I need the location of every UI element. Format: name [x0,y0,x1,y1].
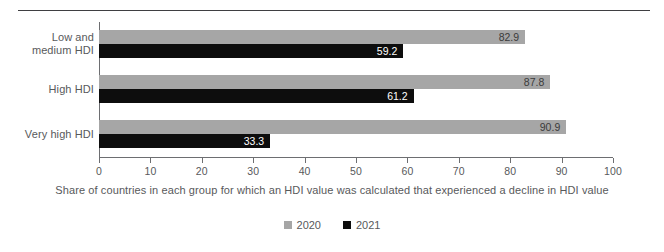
x-tick-mark [459,158,460,163]
bar-value-label: 90.9 [99,120,566,134]
x-tick-label: 100 [593,165,633,177]
x-tick-label: 60 [387,165,427,177]
category-label-very-high-hdi: Very high HDI [0,128,94,141]
x-tick-label: 80 [490,165,530,177]
bar-value-label: 87.8 [99,75,550,89]
category-label-line: medium HDI [0,44,94,57]
category-label-line: Low and [0,31,94,44]
x-tick-label: 70 [439,165,479,177]
category-label-high-hdi: High HDI [0,83,94,96]
x-tick-mark [407,158,408,163]
x-tick-label: 40 [285,165,325,177]
x-tick-mark [510,158,511,163]
bar-row: 33.3 [99,134,613,148]
category-label-low-and-medium-hdi: Low andmedium HDI [0,31,94,57]
legend-item-2021[interactable]: 2021 [343,219,380,231]
x-tick-mark [253,158,254,163]
x-tick-label: 30 [233,165,273,177]
bar-row: 61.2 [99,89,613,103]
x-tick-mark [356,158,357,163]
legend-label-2020: 2020 [297,219,321,231]
x-tick-mark [202,158,203,163]
x-tick-mark [150,158,151,163]
x-tick-mark [99,158,100,163]
chart-caption: Share of countries in each group for whi… [0,184,664,196]
bar-value-label: 59.2 [99,44,403,58]
top-divider-rule [18,10,650,11]
bar-row: 82.9 [99,30,613,44]
x-tick-label: 10 [130,165,170,177]
category-label-line: High HDI [0,83,94,96]
category-label-line: Very high HDI [0,128,94,141]
chart-figure: 0102030405060708090100 82.959.287.861.29… [0,0,664,252]
x-tick-label: 50 [336,165,376,177]
bar-value-label: 33.3 [99,134,270,148]
bar-value-label: 61.2 [99,89,414,103]
legend-item-2020[interactable]: 2020 [284,219,321,231]
x-tick-mark [562,158,563,163]
bar-row: 59.2 [99,44,613,58]
legend-swatch-2020 [284,221,292,229]
chart-legend: 2020 2021 [0,219,664,231]
bar-row: 90.9 [99,120,613,134]
x-tick-mark [613,158,614,163]
legend-label-2021: 2021 [356,219,380,231]
legend-swatch-2021 [343,221,351,229]
bar-row: 87.8 [99,75,613,89]
x-tick-mark [305,158,306,163]
x-tick-label: 20 [182,165,222,177]
x-tick-label: 0 [79,165,119,177]
bar-value-label: 82.9 [99,30,525,44]
plot-area: 0102030405060708090100 82.959.287.861.29… [99,22,613,157]
x-tick-label: 90 [542,165,582,177]
